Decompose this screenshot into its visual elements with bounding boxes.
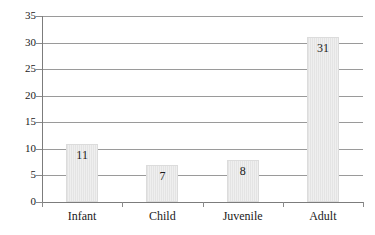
- x-label-adult: Adult: [283, 209, 363, 223]
- bar-value-label-child: 7: [147, 170, 177, 183]
- bar-adult[interactable]: 31: [307, 37, 339, 202]
- y-tick-label-20: 20: [25, 90, 36, 101]
- y-axis-line: [42, 16, 43, 203]
- y-tick-25: [36, 69, 42, 70]
- plot-area: 117831: [42, 16, 363, 202]
- x-label-child: Child: [122, 209, 202, 223]
- x-tick-1: [122, 202, 123, 207]
- x-label-infant: Infant: [42, 209, 122, 223]
- y-tick-label-10: 10: [25, 143, 36, 154]
- bar-value-label-adult: 31: [308, 42, 338, 55]
- bar-value-label-infant: 11: [67, 149, 97, 162]
- y-tick-35: [36, 16, 42, 17]
- x-label-juvenile: Juvenile: [203, 209, 283, 223]
- y-tick-30: [36, 43, 42, 44]
- gridline-35: [42, 16, 363, 17]
- y-tick-label-25: 25: [25, 63, 36, 74]
- y-tick-label-5: 5: [31, 169, 37, 180]
- y-tick-10: [36, 149, 42, 150]
- y-tick-20: [36, 96, 42, 97]
- x-tick-0: [42, 202, 43, 207]
- y-tick-5: [36, 175, 42, 176]
- y-tick-label-35: 35: [25, 10, 36, 21]
- y-tick-15: [36, 122, 42, 123]
- y-tick-label-30: 30: [25, 37, 36, 48]
- bar-juvenile[interactable]: 8: [227, 160, 259, 203]
- bar-infant[interactable]: 11: [66, 144, 98, 202]
- y-tick-label-0: 0: [31, 196, 37, 207]
- bar-child[interactable]: 7: [146, 165, 178, 202]
- bar-chart: 117831 35302520151050 InfantChildJuvenil…: [0, 0, 375, 235]
- x-tick-2: [203, 202, 204, 207]
- y-tick-label-15: 15: [25, 116, 36, 127]
- x-tick-4: [363, 202, 364, 207]
- x-tick-3: [283, 202, 284, 207]
- bar-value-label-juvenile: 8: [228, 165, 258, 178]
